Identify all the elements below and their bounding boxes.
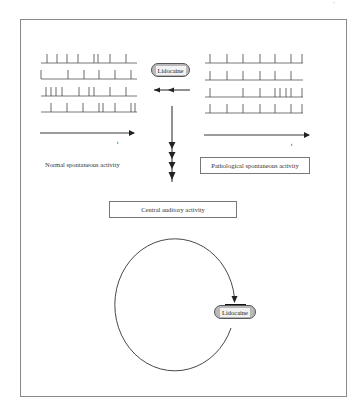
right-time-label: t	[291, 142, 292, 147]
block-arrows-left	[154, 88, 190, 93]
loop-arrowhead-icon	[232, 296, 238, 303]
left-time-label: t	[117, 140, 118, 145]
downward-arrow-stack	[169, 106, 176, 182]
diagram-canvas: ʼ	[0, 0, 363, 413]
right-spike-trains	[205, 54, 303, 113]
central-auditory-activity-box: Central auditory activity	[109, 201, 237, 218]
left-spike-trains	[41, 54, 137, 112]
lidocaine-label: Lidocaine	[156, 66, 186, 75]
lidocaine-badge-top: Lidocaine	[151, 63, 190, 77]
normal-activity-label: Normal spontaneous activity	[45, 161, 120, 168]
lidocaine-badge-loop: Lidocaine	[214, 305, 256, 319]
lidocaine-label: Lidocaine	[220, 308, 250, 317]
pathological-activity-box: Pathological spontaneous activity	[200, 157, 310, 174]
